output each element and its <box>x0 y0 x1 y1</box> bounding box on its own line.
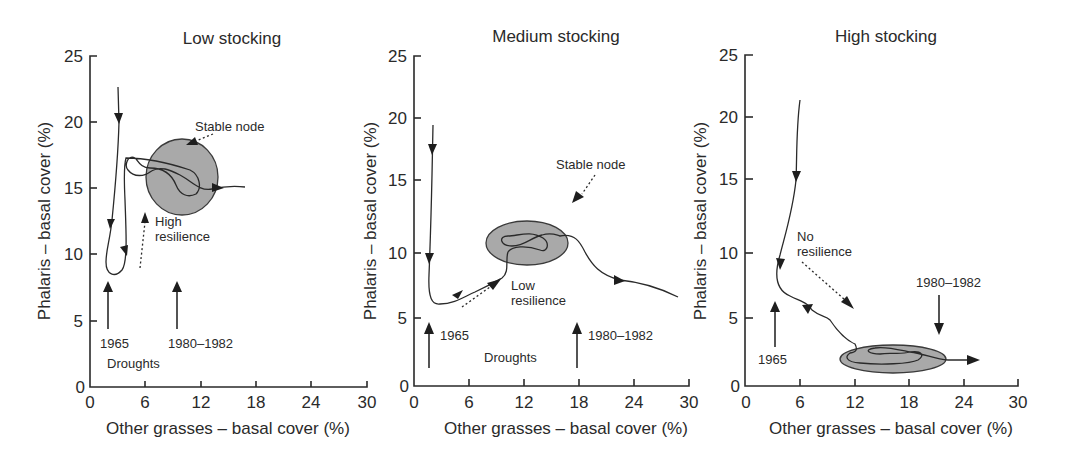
x-ticks <box>145 381 311 387</box>
svg-text:10: 10 <box>388 244 407 263</box>
panel-low-stocking: Low stocking 25 20 15 10 5 0 0 6 12 18 <box>35 29 376 438</box>
arrowhead-icon <box>141 212 149 223</box>
resilience-label-line1: High <box>155 214 182 229</box>
svg-text:15: 15 <box>388 171 407 190</box>
panel-medium-stocking: Medium stocking 25 20 15 10 5 0 0 6 12 1… <box>361 27 698 438</box>
panel-title: High stocking <box>835 27 937 46</box>
arrowhead-icon <box>934 323 944 335</box>
drought-1965-label: 1965 <box>100 336 129 351</box>
panel-title: Low stocking <box>183 29 281 48</box>
y-axis-label: Phalaris – basal cover (%) <box>361 122 380 320</box>
svg-text:0: 0 <box>76 378 85 397</box>
x-axis-label: Other grasses – basal cover (%) <box>106 419 350 438</box>
stable-node-label: Stable node <box>195 119 264 134</box>
stable-node-pointer <box>196 134 213 141</box>
svg-text:20: 20 <box>64 113 83 132</box>
svg-text:25: 25 <box>388 47 407 66</box>
resilience-label-line2: resilience <box>511 293 566 308</box>
drought-1980-label: 1980–1982 <box>168 336 233 351</box>
svg-text:15: 15 <box>64 179 83 198</box>
resilience-pointer <box>802 262 845 300</box>
svg-text:24: 24 <box>955 393 974 412</box>
stable-node-ellipse <box>486 221 568 265</box>
svg-text:0: 0 <box>409 393 418 412</box>
y-axis <box>745 55 1018 386</box>
y-tick-labels: 25 20 15 10 5 0 <box>388 47 409 396</box>
arrowhead-icon <box>424 322 434 334</box>
svg-text:12: 12 <box>846 393 865 412</box>
arrowhead-icon <box>572 191 584 203</box>
svg-text:12: 12 <box>192 393 211 412</box>
svg-text:30: 30 <box>358 393 377 412</box>
x-tick-labels: 0 6 12 18 24 30 <box>741 393 1027 412</box>
y-tick-labels: 25 20 15 10 5 0 <box>719 46 740 396</box>
arrowhead-icon <box>425 253 434 264</box>
resilience-label-line1: Low <box>511 278 535 293</box>
x-ticks <box>469 379 634 386</box>
drought-1980-label: 1980–1982 <box>916 275 981 290</box>
svg-text:30: 30 <box>680 393 699 412</box>
arrowhead-icon <box>452 290 463 299</box>
svg-text:18: 18 <box>900 393 919 412</box>
arrowhead-icon <box>172 281 182 292</box>
svg-text:18: 18 <box>570 393 589 412</box>
svg-text:6: 6 <box>795 393 804 412</box>
stable-node-label: Stable node <box>556 157 625 172</box>
svg-text:20: 20 <box>388 109 407 128</box>
svg-text:0: 0 <box>731 377 740 396</box>
resilience-pointer <box>462 287 490 307</box>
svg-text:6: 6 <box>140 393 149 412</box>
svg-text:10: 10 <box>719 244 738 263</box>
droughts-label: Droughts <box>107 356 160 371</box>
arrowhead-icon <box>572 322 582 334</box>
arrowhead-icon <box>428 144 437 155</box>
x-tick-labels: 0 6 12 18 24 30 <box>409 393 698 412</box>
resilience-label-line2: resilience <box>155 229 210 244</box>
x-axis-label: Other grasses – basal cover (%) <box>769 419 1013 438</box>
trajectory-line <box>429 125 678 304</box>
arrowhead-icon <box>114 113 123 124</box>
panel-title: Medium stocking <box>492 27 620 46</box>
svg-text:10: 10 <box>64 245 83 264</box>
droughts-label: Droughts <box>484 350 537 365</box>
panel-high-stocking: High stocking 25 20 15 10 5 0 0 6 12 18 <box>691 27 1027 438</box>
svg-text:25: 25 <box>64 47 83 66</box>
drought-1980-label: 1980–1982 <box>588 328 653 343</box>
svg-text:6: 6 <box>464 393 473 412</box>
svg-text:12: 12 <box>515 393 534 412</box>
svg-text:5: 5 <box>729 309 738 328</box>
x-ticks <box>800 379 964 386</box>
y-axis-label: Phalaris – basal cover (%) <box>35 122 54 320</box>
svg-text:18: 18 <box>247 393 266 412</box>
svg-text:30: 30 <box>1009 393 1028 412</box>
drought-1965-label: 1965 <box>440 328 469 343</box>
y-axis-label: Phalaris – basal cover (%) <box>691 122 710 320</box>
y-ticks <box>414 118 421 318</box>
y-ticks <box>90 122 97 321</box>
stable-node-circle <box>146 139 218 215</box>
resilience-label-line2: resilience <box>797 244 852 259</box>
svg-text:20: 20 <box>719 108 738 127</box>
svg-text:25: 25 <box>719 46 738 65</box>
y-tick-labels: 25 20 15 10 5 0 <box>64 47 85 397</box>
resilience-figure: Low stocking 25 20 15 10 5 0 0 6 12 18 <box>0 0 1067 466</box>
resilience-pointer <box>140 222 145 268</box>
svg-text:5: 5 <box>398 309 407 328</box>
drought-1965-label: 1965 <box>758 352 787 367</box>
stable-node-pointer <box>582 175 595 194</box>
svg-text:0: 0 <box>741 393 750 412</box>
arrowhead-icon <box>792 171 801 182</box>
svg-text:0: 0 <box>400 377 409 396</box>
arrowhead-icon <box>770 301 780 312</box>
svg-text:24: 24 <box>625 393 644 412</box>
arrowhead-icon <box>120 245 128 256</box>
arrowhead-icon <box>967 355 980 365</box>
svg-text:24: 24 <box>302 393 321 412</box>
resilience-label-line1: No <box>797 229 814 244</box>
x-axis-label: Other grasses – basal cover (%) <box>444 419 688 438</box>
svg-text:5: 5 <box>74 312 83 331</box>
y-ticks <box>745 117 753 318</box>
arrowhead-icon <box>103 281 113 292</box>
x-tick-labels: 0 6 12 18 24 30 <box>85 393 376 412</box>
svg-text:0: 0 <box>85 393 94 412</box>
